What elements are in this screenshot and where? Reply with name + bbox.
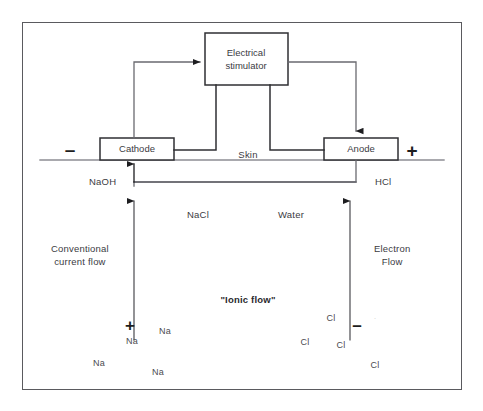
electron-flow-line2: Flow <box>374 256 410 269</box>
wire-stimulator-right-leg <box>270 85 324 150</box>
sodium-ion-label: Na <box>126 335 138 347</box>
negative-terminal-sign: – <box>65 140 76 159</box>
chloride-negative-charge-sign: – <box>352 317 361 334</box>
wire-stimulator-left-leg <box>174 85 216 150</box>
chloride-ion-label: Cl <box>371 359 380 371</box>
sodium-ion-label: Na <box>159 325 171 337</box>
sodium-ion-label: Na <box>93 357 105 369</box>
positive-terminal-sign: + <box>406 141 417 160</box>
hcl-label: HCl <box>375 176 391 189</box>
chloride-charge-artifact-mark: · <box>374 315 376 321</box>
stimulator-label-line2: stimulator <box>225 59 266 72</box>
conventional-current-flow-line2: current flow <box>51 256 109 269</box>
wire-cathode-to-stimulator <box>134 62 200 138</box>
anode-label: Anode <box>347 142 374 155</box>
diagram-page: Electrical stimulator Cathode Anode – + … <box>0 0 483 411</box>
cathode-label: Cathode <box>119 142 155 155</box>
sodium-positive-charge-sign: + <box>125 317 135 334</box>
stimulator-label: Electrical stimulator <box>225 46 266 73</box>
sodium-ion-label: Na <box>152 366 164 378</box>
skin-label: Skin <box>238 149 257 162</box>
ionic-flow-label: "Ionic flow" <box>220 294 275 307</box>
wire-stimulator-to-anode <box>288 62 356 131</box>
chloride-ion-label: Cl <box>327 312 336 324</box>
conventional-current-flow-line1: Conventional <box>51 243 109 256</box>
water-label: Water <box>278 209 304 222</box>
electron-flow-line1: Electron <box>374 243 410 256</box>
conventional-current-flow-label: Conventional current flow <box>51 243 109 269</box>
electron-flow-label: Electron Flow <box>374 243 410 269</box>
nacl-label: NaCl <box>187 209 209 222</box>
naoh-label: NaOH <box>89 176 116 189</box>
chloride-ion-label: Cl <box>337 339 346 351</box>
chloride-ion-label: Cl <box>301 336 310 348</box>
stimulator-label-line1: Electrical <box>225 46 266 59</box>
